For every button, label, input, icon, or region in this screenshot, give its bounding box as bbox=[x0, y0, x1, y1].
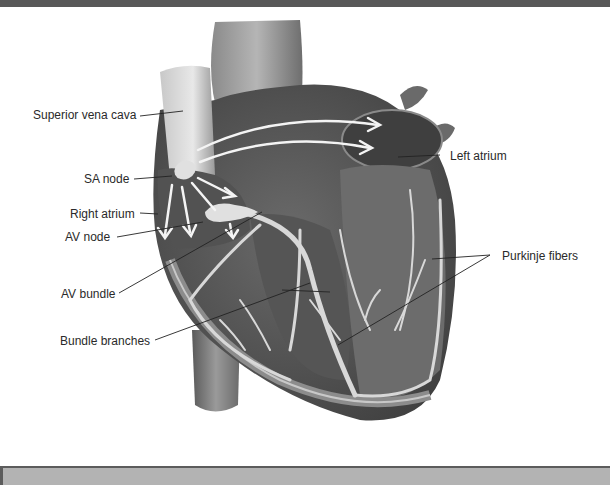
label-superior-vena-cava: Superior vena cava bbox=[33, 108, 136, 122]
label-av-node: AV node bbox=[65, 230, 110, 244]
label-right-atrium: Right atrium bbox=[70, 207, 135, 221]
label-sa-node: SA node bbox=[84, 172, 129, 186]
left-atrium-shape bbox=[342, 110, 442, 170]
label-purkinje-fibers: Purkinje fibers bbox=[502, 249, 578, 263]
caption-bar bbox=[0, 466, 610, 485]
label-left-atrium: Left atrium bbox=[450, 149, 507, 163]
label-bundle-branches: Bundle branches bbox=[60, 334, 150, 348]
label-av-bundle: AV bundle bbox=[61, 287, 116, 301]
